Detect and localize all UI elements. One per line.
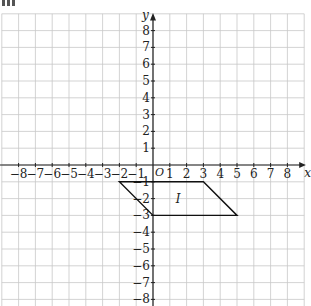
origin-label: O [155,166,164,179]
x-tick-label: −3 [94,167,112,181]
y-tick-label: −7 [132,276,150,290]
y-axis-label: y [141,8,149,22]
x-tick-label: 2 [183,167,191,181]
x-tick-label: 7 [267,167,275,181]
y-tick-label: 2 [142,124,150,138]
y-tick-label: −8 [132,292,150,306]
coordinate-grid: −8−7−6−5−4−3−2−11234567887654321−1−2−3−4… [0,0,311,306]
y-tick-label: −6 [132,259,150,273]
x-tick-label: 6 [250,167,258,181]
y-tick-label: −4 [132,225,150,239]
y-tick-label: 1 [142,141,150,155]
x-tick-label: −2 [111,167,129,181]
x-tick-label: −8 [10,167,28,181]
x-axis-label: x [304,166,311,180]
axes [0,13,306,306]
y-tick-label: 7 [142,40,150,54]
x-tick-label: −7 [27,167,45,181]
y-tick-label: 6 [142,57,150,71]
x-tick-label: 4 [216,167,224,181]
x-tick-label: 1 [166,167,174,181]
y-tick-label: 3 [142,108,150,122]
x-tick-label: −6 [43,167,61,181]
y-tick-label: 8 [142,24,150,38]
y-tick-label: 5 [142,74,150,88]
x-tick-label: 3 [200,167,208,181]
x-tick-label: −4 [77,167,95,181]
shape-label: I [175,192,181,206]
x-tick-label: 5 [233,167,241,181]
y-tick-label: −5 [132,242,150,256]
y-tick-label: 4 [142,91,150,105]
x-tick-label: 8 [284,167,292,181]
x-tick-label: −5 [60,167,78,181]
